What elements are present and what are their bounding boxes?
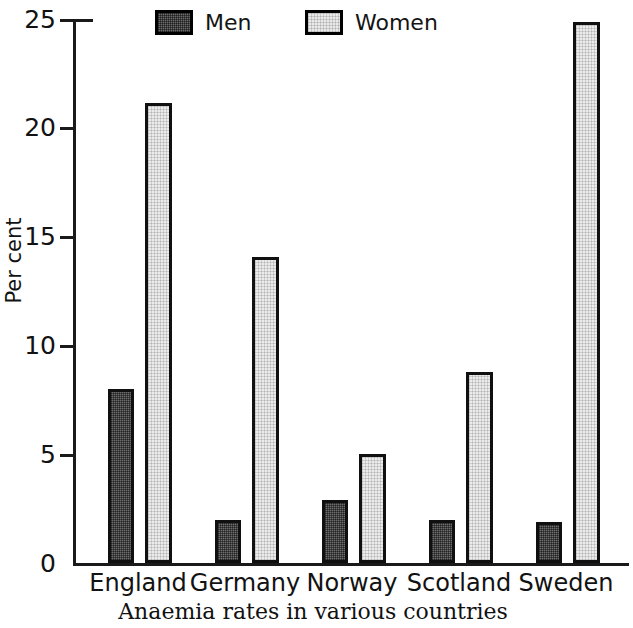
y-tick-label-25: 25	[2, 7, 56, 32]
y-tick-15	[60, 236, 73, 239]
bar-germany-men	[215, 520, 241, 563]
bar-sweden-women	[573, 22, 600, 563]
y-tick-20	[60, 127, 73, 130]
bar-scotland-women	[466, 372, 493, 563]
bar-norway-women	[359, 454, 386, 563]
bar-england-women	[145, 103, 172, 563]
bar-scotland-men	[429, 520, 455, 563]
bar-england-men	[108, 389, 134, 563]
plot-area	[73, 20, 629, 566]
y-tick-label-5: 5	[2, 442, 56, 467]
figure-caption: Anaemia rates in various countries	[0, 600, 626, 624]
y-tick-10	[60, 345, 73, 348]
y-axis-title: Per cent	[4, 161, 25, 361]
y-tick-label-20: 20	[2, 115, 56, 140]
bar-norway-men	[322, 500, 348, 563]
y-tick-label-0: 0	[2, 551, 56, 576]
x-tick-label-sweden: Sweden	[491, 570, 633, 596]
y-tick-25	[60, 19, 73, 22]
bar-germany-women	[252, 257, 279, 563]
bar-sweden-men	[536, 522, 562, 563]
y-tick-5	[60, 454, 73, 457]
